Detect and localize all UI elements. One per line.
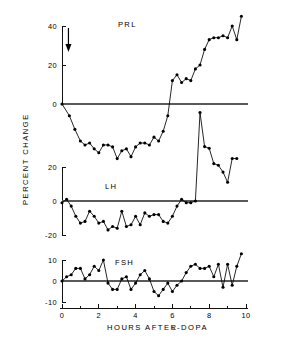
data-point bbox=[217, 263, 220, 266]
x-axis: 0246810 bbox=[60, 304, 251, 321]
figure-container: PERCENT CHANGE 40200PRL 200-20LH 100-10F… bbox=[0, 0, 289, 352]
data-point bbox=[235, 265, 238, 268]
data-point bbox=[65, 275, 68, 278]
data-point bbox=[217, 164, 220, 167]
data-point bbox=[171, 290, 174, 293]
data-point bbox=[185, 271, 188, 274]
data-point bbox=[175, 205, 178, 208]
data-point bbox=[231, 284, 234, 287]
data-point bbox=[180, 279, 183, 282]
data-point bbox=[60, 201, 63, 204]
data-point bbox=[102, 220, 105, 223]
data-point bbox=[125, 147, 128, 150]
data-point bbox=[102, 258, 105, 261]
x-tick-label: 10 bbox=[241, 311, 250, 320]
data-point bbox=[93, 265, 96, 268]
y-axis-title: PERCENT CHANGE bbox=[21, 113, 30, 205]
data-point bbox=[111, 145, 114, 148]
data-point bbox=[171, 215, 174, 218]
y-tick-label: 0 bbox=[52, 197, 57, 206]
data-point bbox=[134, 282, 137, 285]
data-point bbox=[73, 128, 76, 131]
data-point bbox=[226, 263, 229, 266]
data-point bbox=[231, 157, 234, 160]
data-point bbox=[79, 140, 82, 143]
data-point bbox=[162, 130, 165, 133]
data-point bbox=[129, 288, 132, 291]
data-point bbox=[212, 275, 215, 278]
data-point bbox=[221, 286, 224, 289]
data-point bbox=[111, 225, 114, 228]
data-point bbox=[60, 102, 63, 105]
data-point bbox=[143, 141, 146, 144]
data-point bbox=[79, 222, 82, 225]
data-point bbox=[221, 171, 224, 174]
data-point bbox=[148, 143, 151, 146]
data-point bbox=[235, 157, 238, 160]
data-point bbox=[120, 210, 123, 213]
data-point bbox=[88, 141, 91, 144]
data-point bbox=[106, 143, 109, 146]
data-point bbox=[194, 199, 197, 202]
data-point bbox=[70, 205, 73, 208]
panel-label-fsh: FSH bbox=[115, 258, 134, 267]
data-point bbox=[111, 288, 114, 291]
data-point bbox=[171, 79, 174, 82]
data-point bbox=[148, 277, 151, 280]
data-point bbox=[152, 213, 155, 216]
data-point bbox=[240, 252, 243, 255]
data-point bbox=[212, 162, 215, 165]
data-point bbox=[162, 220, 165, 223]
data-point bbox=[134, 215, 137, 218]
data-point bbox=[157, 213, 160, 216]
data-point bbox=[148, 215, 151, 218]
data-point bbox=[134, 145, 137, 148]
data-point bbox=[203, 48, 206, 51]
data-point bbox=[88, 273, 91, 276]
data-point bbox=[97, 222, 100, 225]
panel-label-lh: LH bbox=[105, 182, 117, 191]
data-point bbox=[106, 228, 109, 231]
data-point bbox=[143, 211, 146, 214]
data-point bbox=[139, 141, 142, 144]
y-tick-label: 0 bbox=[52, 277, 57, 286]
data-point bbox=[166, 114, 169, 117]
data-point bbox=[65, 198, 68, 201]
y-tick-label: -10 bbox=[45, 298, 57, 307]
data-point bbox=[221, 34, 224, 37]
data-point bbox=[152, 136, 155, 139]
data-point bbox=[93, 147, 96, 150]
data-point bbox=[116, 157, 119, 160]
x-axis-title-main: HOURS AFTER bbox=[107, 323, 178, 332]
data-point bbox=[97, 269, 100, 272]
data-point bbox=[208, 147, 211, 150]
data-point bbox=[79, 267, 82, 270]
data-point bbox=[74, 215, 77, 218]
data-point bbox=[116, 227, 119, 230]
data-point bbox=[74, 267, 77, 270]
data-point bbox=[166, 282, 169, 285]
data-point bbox=[180, 198, 183, 201]
data-point bbox=[194, 67, 197, 70]
y-tick-label: -20 bbox=[45, 231, 57, 240]
data-point bbox=[175, 73, 178, 76]
data-point bbox=[189, 265, 192, 268]
data-point bbox=[143, 269, 146, 272]
data-point bbox=[162, 288, 165, 291]
data-point bbox=[185, 77, 188, 80]
panel-fsh: 100-10FSH bbox=[45, 252, 248, 306]
x-tick-label: 2 bbox=[97, 311, 102, 320]
data-point bbox=[198, 267, 201, 270]
x-tick-label: 8 bbox=[207, 311, 212, 320]
data-point bbox=[208, 265, 211, 268]
data-point bbox=[185, 201, 188, 204]
data-point bbox=[208, 38, 211, 41]
data-point bbox=[189, 79, 192, 82]
data-point bbox=[189, 201, 192, 204]
y-tick-label: 20 bbox=[48, 163, 57, 172]
data-point bbox=[226, 181, 229, 184]
panel-label-prl: PRL bbox=[118, 20, 137, 29]
x-axis-title-prefix: L bbox=[172, 325, 176, 331]
data-point bbox=[60, 279, 63, 282]
data-point bbox=[106, 282, 109, 285]
